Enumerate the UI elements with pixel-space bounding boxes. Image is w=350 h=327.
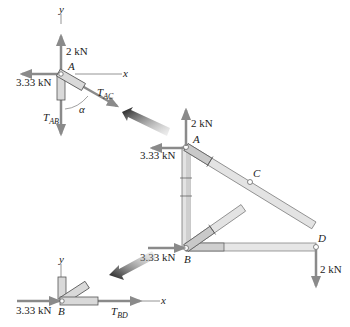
truss-label-b: B: [184, 253, 191, 265]
tension-bd-label: TBD: [111, 305, 128, 320]
joint-b-pin: [60, 299, 64, 303]
x-axis-label: x: [160, 294, 166, 306]
truss-label-d: D: [317, 232, 326, 244]
truss-diagram: y x 2 kN 3.33 kN A TAC TAB α: [0, 0, 350, 327]
pointer-to-fbd-b: [109, 251, 156, 280]
fbd-joint-a: y x 2 kN 3.33 kN A TAC TAB α: [16, 3, 128, 134]
force-a-up-label: 2 kN: [191, 117, 213, 129]
joint-b-pin: [184, 246, 189, 251]
angle-alpha-label: α: [79, 103, 85, 115]
joint-c-pin: [248, 180, 253, 185]
force-d-down-label: 2 kN: [320, 263, 342, 275]
member-bd-stub: [60, 297, 98, 305]
x-axis-label: x: [122, 67, 128, 79]
joint-a-label: A: [67, 60, 75, 72]
force-left-label: 3.33 kN: [16, 76, 52, 88]
force-right-label: 3.33 kN: [16, 304, 52, 316]
tension-ab-label: TAB: [43, 111, 59, 126]
joint-b-label: B: [58, 305, 65, 317]
joint-d-pin: [314, 245, 319, 250]
y-axis-label: y: [58, 3, 64, 15]
truss-label-c: C: [253, 167, 261, 179]
y-axis-label: y: [58, 253, 64, 265]
force-up-label: 2 kN: [66, 45, 88, 57]
force-a-left-label: 3.33 kN: [140, 149, 176, 161]
member-ab-shade: [186, 147, 190, 248]
tension-ac-label: TAC: [97, 86, 114, 101]
truss-structure: 2 kN 3.33 kN 3.33 kN 2 kN A B C D: [140, 110, 342, 286]
joint-a-pin: [59, 72, 63, 76]
truss-label-a: A: [192, 133, 200, 145]
pointer-to-fbd-a: [122, 107, 170, 136]
